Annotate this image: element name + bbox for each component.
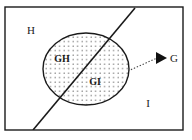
label-region-h: H — [27, 24, 35, 36]
label-region-gh: GH — [54, 53, 70, 64]
set-G-ellipse — [43, 33, 129, 105]
label-region-i: I — [146, 97, 150, 109]
label-set-g: G — [170, 52, 178, 64]
diagram-canvas: H GH GI I G — [0, 0, 192, 140]
label-region-gi: GI — [89, 76, 101, 87]
venn-diagram-figure: H GH GI I G — [0, 0, 192, 140]
